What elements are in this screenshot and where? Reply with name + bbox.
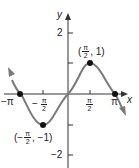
fraction: π2 [86, 97, 93, 112]
denominator: 2 [87, 105, 91, 112]
point-neg-pi [17, 91, 23, 97]
minus-sign: − [32, 98, 38, 109]
point-min [40, 122, 46, 128]
x-tick-label-neg-pi: −π [1, 97, 14, 107]
numerator: π [86, 97, 93, 105]
paren-open: ( [78, 47, 81, 57]
numerator: π [24, 130, 31, 138]
x-tick-label-neg-pi-half: − π2 [32, 97, 47, 112]
paren-open: (− [14, 133, 23, 143]
denominator: 2 [42, 105, 46, 112]
fraction: π2 [24, 130, 31, 145]
x-axis-label: x [127, 95, 132, 105]
denominator: 2 [84, 52, 88, 59]
numerator: π [82, 44, 89, 52]
fraction: π2 [41, 97, 48, 112]
y-axis-arrow-icon [65, 13, 71, 20]
x-tick-label-pi: π [111, 97, 118, 107]
point-max [87, 60, 93, 66]
y-tick-label-neg2: −2 [51, 150, 62, 160]
pi-symbol: π [7, 96, 14, 107]
x-tick-label-pi-half: π2 [86, 97, 93, 112]
fraction: π2 [82, 44, 89, 59]
curve-left-arrow-icon [8, 67, 15, 77]
paren-close: , 1) [90, 47, 104, 57]
max-point-label: ( π2 , 1) [78, 44, 105, 59]
numerator: π [41, 97, 48, 105]
curve-right-arrow-icon [119, 106, 126, 116]
y-axis-label: y [57, 10, 62, 20]
paren-close: , −1) [32, 133, 52, 143]
y-tick-label-2: 2 [57, 28, 63, 38]
denominator: 2 [26, 138, 30, 145]
min-point-label: (− π2 , −1) [14, 130, 52, 145]
